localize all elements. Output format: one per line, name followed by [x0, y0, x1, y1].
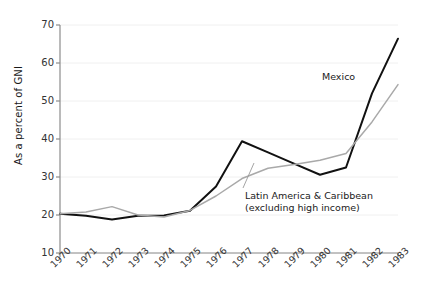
series-label-mexico: Mexico: [322, 71, 355, 83]
y-axis-tick-label: 60: [32, 58, 54, 68]
series-label-latin-america-caribbean: Latin America & Caribbean (excluding hig…: [245, 190, 373, 214]
y-axis-tick-label: 20: [32, 210, 54, 220]
chart-container: As a percent of GNI 10203040506070 19701…: [0, 0, 427, 302]
series-label-lac-line2: (excluding high income): [245, 202, 373, 214]
leader-line-lac: [243, 163, 254, 188]
y-axis-tick-label: 40: [32, 134, 54, 144]
y-axis-title: As a percent of GNI: [13, 26, 24, 206]
series-label-lac-line1: Latin America & Caribbean: [245, 190, 373, 202]
y-axis-tick-label: 30: [32, 172, 54, 182]
annotation-leader-lines: [243, 163, 254, 188]
y-axis-tick-label: 10: [32, 248, 54, 258]
y-axis-tick-label: 70: [32, 20, 54, 30]
y-axis-tick-label: 50: [32, 96, 54, 106]
